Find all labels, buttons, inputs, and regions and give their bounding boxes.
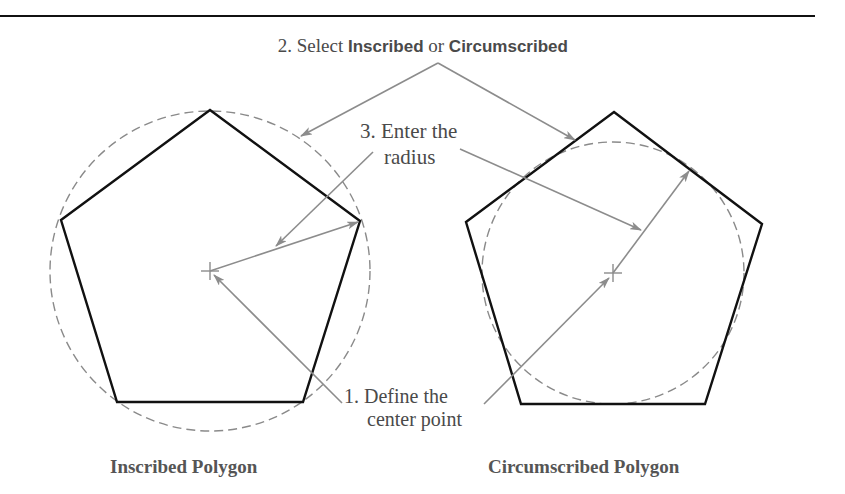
radius-callout-line2: radius [384,145,435,169]
circumscribed-figure [466,112,762,404]
center-callout-line1: 1. Define the [344,385,448,407]
polygon-diagram: 2. Select Inscribed or Circumscribed 3. … [0,0,845,494]
select-leader-right [438,63,575,140]
select-prefix: 2. Select [278,35,348,56]
select-joiner: or [424,35,449,56]
circumscribed-caption: Circumscribed Polygon [488,456,680,477]
circumscribed-pentagon [466,112,762,404]
inscribed-pentagon [61,110,360,402]
radius-leader-left [276,152,373,246]
option-inscribed: Inscribed [348,37,424,56]
radius-callout-line1: 3. Enter the [360,119,457,143]
radius-leader-right [460,149,641,230]
inscribed-caption: Inscribed Polygon [110,456,258,477]
inscribed-radius-arrow [210,222,358,271]
center-callout-line2: center point [367,408,462,431]
select-callout: 2. Select Inscribed or Circumscribed [254,35,582,56]
option-circumscribed: Circumscribed [449,37,568,56]
